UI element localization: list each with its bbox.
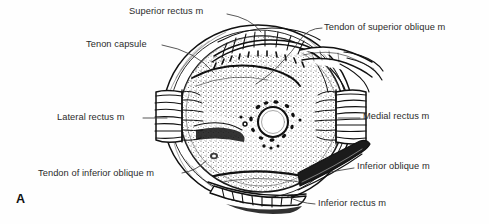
label-inferior-oblique: Inferior oblique m <box>357 162 430 171</box>
illustration-ink <box>143 14 383 214</box>
figure-panel-a: Superior rectus m Tenon capsule Lateral … <box>0 0 489 224</box>
label-tendon-of-inferior-oblique: Tendon of inferior oblique m <box>38 169 154 178</box>
panel-letter: A <box>16 193 25 206</box>
label-tendon-of-superior-oblique: Tendon of superior oblique m <box>324 23 445 32</box>
label-inferior-rectus: Inferior rectus m <box>318 199 386 208</box>
label-lateral-rectus: Lateral rectus m <box>57 113 124 122</box>
label-medial-rectus: Medial rectus m <box>363 112 429 121</box>
label-superior-rectus: Superior rectus m <box>129 7 203 16</box>
label-tenon-capsule: Tenon capsule <box>86 40 147 49</box>
